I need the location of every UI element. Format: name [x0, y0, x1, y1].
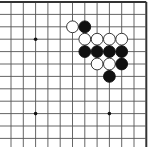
white-stone: [79, 33, 91, 45]
white-stone: [104, 58, 116, 70]
black-stone: [116, 58, 128, 70]
black-stone: [79, 46, 91, 58]
white-stone: [67, 21, 79, 33]
black-stone: [104, 46, 116, 58]
white-stone: [91, 58, 103, 70]
star-point: [108, 112, 112, 116]
white-stone: [104, 33, 116, 45]
black-stone: [104, 71, 116, 83]
white-stone: [116, 33, 128, 45]
white-stone: [91, 33, 103, 45]
star-point: [34, 112, 38, 116]
black-stone: [79, 21, 91, 33]
star-point: [34, 37, 38, 41]
go-board: [0, 0, 150, 147]
black-stone: [116, 46, 128, 58]
black-stone: [91, 46, 103, 58]
